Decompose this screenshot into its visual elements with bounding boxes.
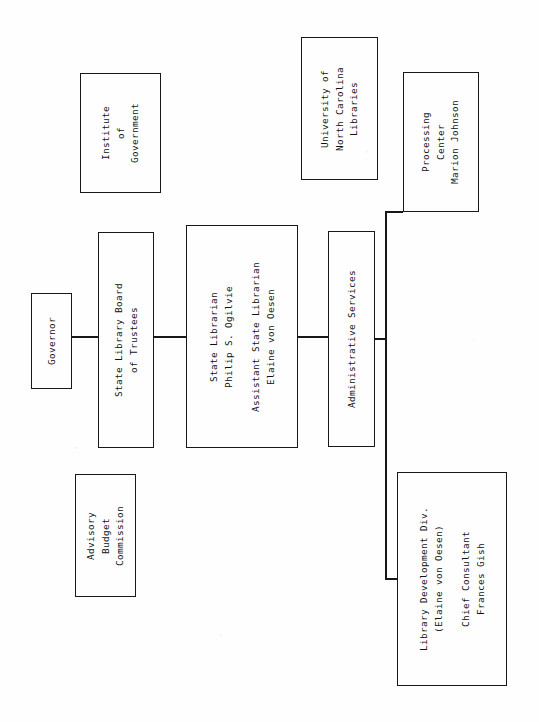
label-line: Institute (99, 103, 114, 163)
label-line: Center (434, 100, 449, 184)
label-line: Frances Gish (473, 507, 488, 651)
label-line: Advisory (84, 506, 99, 566)
connector-governor-to-board (72, 336, 98, 338)
node-label-library-development-division: Library Development Div.(Elaine von Oese… (417, 507, 488, 651)
org-chart-page: InstituteofGovernmentGovernorState Libra… (0, 0, 539, 722)
label-line: Government (128, 103, 143, 163)
node-label-governor: Governor (44, 317, 59, 365)
label-line: Assistant State Librarian (249, 262, 264, 412)
label-line: Library Development Div. (417, 507, 432, 651)
node-library-development-division[interactable]: Library Development Div.(Elaine von Oese… (397, 472, 507, 686)
node-institute-of-government[interactable]: InstituteofGovernment (80, 73, 161, 193)
label-line: Elaine von Oesen (263, 262, 278, 412)
node-advisory-budget-commission[interactable]: AdvisoryBudgetCommission (75, 474, 136, 597)
label-line: Governor (44, 317, 59, 365)
node-label-institute-of-government: InstituteofGovernment (99, 103, 143, 163)
node-label-processing-center: ProcessingCenterMarion Johnson (419, 100, 463, 184)
label-line: State Library Board (112, 283, 127, 397)
node-governor[interactable]: Governor (31, 293, 72, 389)
label-line: State Librarian (207, 262, 222, 412)
label-line: Chief Consultant (459, 507, 474, 651)
node-label-administrative-services: Administrative Services (344, 270, 359, 408)
label-line: Commission (113, 506, 128, 566)
node-label-state-library-board-of-trustees: State Library Boardof Trustees (112, 283, 141, 397)
label-line: (Elaine von Oesen) (431, 507, 446, 651)
label-line: Libraries (347, 67, 362, 151)
node-label-university-of-north-carolina-libraries: University ofNorth CarolinaLibraries (318, 67, 362, 151)
label-line: Administrative Services (344, 270, 359, 408)
label-line: Budget (98, 506, 113, 566)
label-line: of (113, 103, 128, 163)
node-processing-center[interactable]: ProcessingCenterMarion Johnson (403, 72, 479, 212)
label-line: of Trustees (126, 283, 141, 397)
label-line: University of (318, 67, 333, 151)
node-label-state-librarian: State LibrarianPhilip S. OgilvieAssistan… (207, 262, 278, 412)
connector-librarian-to-admin (298, 336, 328, 338)
node-state-library-board-of-trustees[interactable]: State Library Boardof Trustees (98, 232, 154, 448)
node-administrative-services[interactable]: Administrative Services (328, 231, 375, 447)
connector-vertical-bus (385, 211, 387, 580)
node-university-of-north-carolina-libraries[interactable]: University ofNorth CarolinaLibraries (301, 37, 378, 180)
node-label-advisory-budget-commission: AdvisoryBudgetCommission (84, 506, 128, 566)
label-line: North Carolina (332, 67, 347, 151)
node-state-librarian[interactable]: State LibrarianPhilip S. OgilvieAssistan… (186, 225, 298, 448)
label-spacer (236, 262, 249, 412)
label-line: Marion Johnson (448, 100, 463, 184)
connector-bus-to-processing-center (385, 211, 403, 213)
label-spacer (446, 507, 459, 651)
label-line: Processing (419, 100, 434, 184)
connector-board-to-state-librarian (154, 336, 186, 338)
label-line: Philip S. Ogilvie (221, 262, 236, 412)
